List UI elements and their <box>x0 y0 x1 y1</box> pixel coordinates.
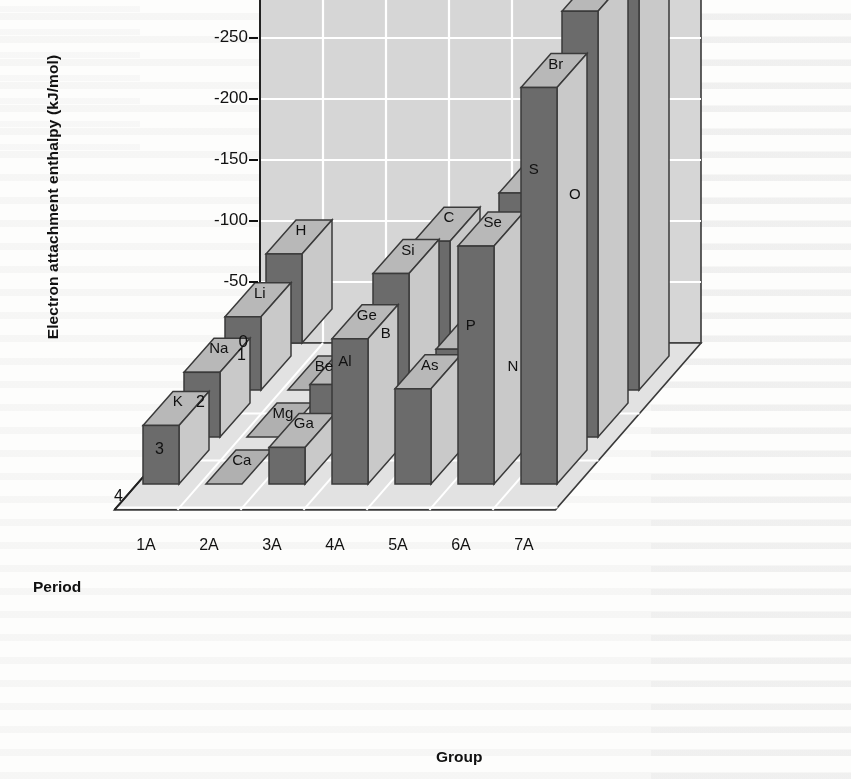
x-axis-label-3A: 3A <box>249 536 295 554</box>
y-tick-mark-1 <box>249 281 258 283</box>
x-axis-label-5A: 5A <box>375 536 421 554</box>
x-axis-label-6A: 6A <box>438 536 484 554</box>
x-axis-label-1A: 1A <box>123 536 169 554</box>
z-axis-label-period-1: 1 <box>237 346 246 364</box>
bar-Ge <box>332 305 398 484</box>
z-axis-label-period-4: 4 <box>114 487 123 505</box>
y-tick-mark-5 <box>249 37 258 39</box>
bar-Br <box>521 54 587 485</box>
y-tick-label-1: -50 <box>174 271 248 291</box>
figure-electron-attachment-enthalpy: Electron attachment enthalpy (kJ/mol) Pe… <box>0 0 851 779</box>
y-tick-mark-2 <box>249 220 258 222</box>
bar-Se <box>458 212 524 484</box>
y-tick-label-3: -150 <box>174 149 248 169</box>
chart-canvas <box>0 0 851 779</box>
y-tick-mark-4 <box>249 98 258 100</box>
z-axis-label-period-2: 2 <box>196 393 205 411</box>
x-axis-label-2A: 2A <box>186 536 232 554</box>
y-tick-label-4: -200 <box>174 88 248 108</box>
y-tick-label-5: -250 <box>174 27 248 47</box>
y-tick-label-2: -100 <box>174 210 248 230</box>
x-axis-label-4A: 4A <box>312 536 358 554</box>
x-axis-label-7A: 7A <box>501 536 547 554</box>
z-axis-label-period-3: 3 <box>155 440 164 458</box>
y-tick-mark-3 <box>249 159 258 161</box>
